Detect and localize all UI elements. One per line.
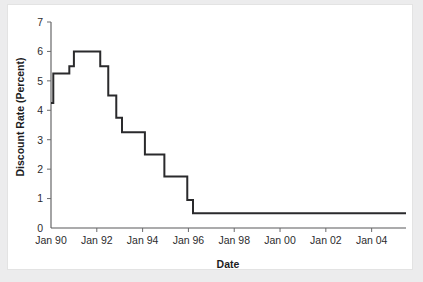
x-tick-label: Jan 98 xyxy=(218,234,250,246)
x-tick-label: Jan 02 xyxy=(310,234,342,246)
y-tick-label: 2 xyxy=(37,163,43,175)
y-tick-label: 6 xyxy=(37,45,43,57)
y-tick-label: 1 xyxy=(37,192,43,204)
y-tick-label: 5 xyxy=(37,75,43,87)
x-axis: Jan 90Jan 92Jan 94Jan 96Jan 98Jan 00Jan … xyxy=(35,228,406,246)
y-axis-title: Discount Rate (Percent) xyxy=(14,57,26,176)
series-line xyxy=(51,51,406,213)
y-tick-label: 0 xyxy=(37,222,43,234)
plot-area: 01234567 Jan 90Jan 92Jan 94Jan 96Jan 98J… xyxy=(0,0,423,282)
x-tick-label: Jan 96 xyxy=(173,234,205,246)
y-tick-label: 7 xyxy=(37,16,43,28)
x-tick-label: Jan 04 xyxy=(356,234,388,246)
y-axis: 01234567 xyxy=(37,16,51,234)
data-series-discount-rate xyxy=(51,51,406,213)
x-tick-label: Jan 00 xyxy=(264,234,296,246)
x-tick-label: Jan 92 xyxy=(81,234,113,246)
x-tick-label: Jan 90 xyxy=(35,234,67,246)
y-tick-label: 3 xyxy=(37,134,43,146)
chart-figure: 01234567 Jan 90Jan 92Jan 94Jan 96Jan 98J… xyxy=(0,0,423,282)
y-tick-label: 4 xyxy=(37,104,43,116)
x-axis-title: Date xyxy=(217,258,240,270)
x-tick-label: Jan 94 xyxy=(127,234,159,246)
